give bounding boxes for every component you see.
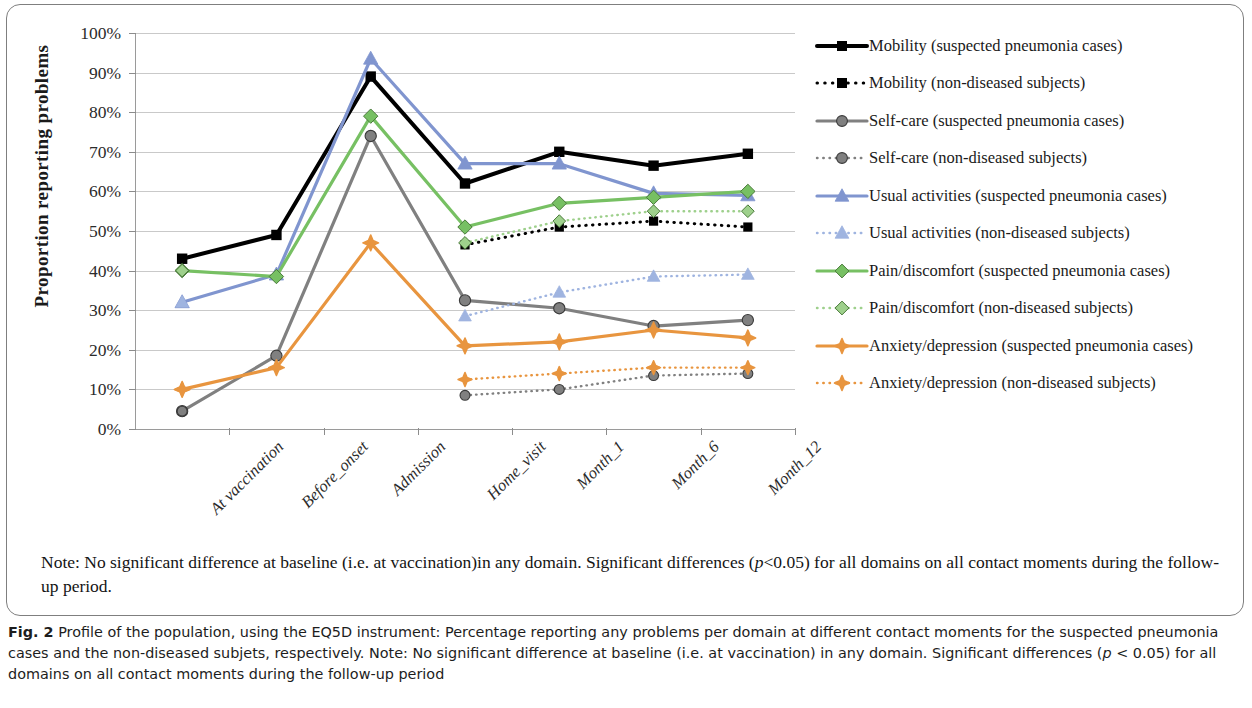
y-tick-mark bbox=[129, 33, 136, 34]
data-point-diamond bbox=[269, 269, 283, 283]
data-point-circle bbox=[365, 130, 376, 141]
y-tick-label: 50% bbox=[51, 221, 121, 242]
legend-item[interactable]: Anxiety/depression (non-diseased subject… bbox=[815, 365, 1245, 403]
y-tick-mark bbox=[129, 231, 136, 232]
legend-key-star-icon bbox=[815, 336, 869, 356]
y-tick-label: 80% bbox=[51, 102, 121, 123]
data-point-circle bbox=[837, 153, 848, 164]
figure-caption: Fig. 2 Profile of the population, using … bbox=[8, 622, 1246, 685]
legend-label: Pain/discomfort (non-diseased subjects) bbox=[869, 298, 1133, 318]
data-point-star bbox=[175, 383, 189, 397]
data-point-diamond bbox=[552, 196, 566, 210]
x-tick-label: Month_12 bbox=[764, 437, 826, 499]
data-point-square bbox=[366, 71, 376, 81]
legend-label: Anxiety/depression (suspected pneumonia … bbox=[869, 336, 1193, 356]
legend-item[interactable]: Mobility (suspected pneumonia cases) bbox=[815, 27, 1245, 65]
data-point-circle bbox=[554, 384, 564, 394]
y-tick-label: 40% bbox=[51, 260, 121, 281]
y-tick-label: 100% bbox=[51, 23, 121, 44]
y-tick-mark bbox=[129, 112, 136, 113]
x-tick-mark bbox=[795, 428, 796, 435]
y-tick-mark bbox=[129, 389, 136, 390]
caption-p-symbol: p bbox=[1102, 645, 1111, 661]
y-tick-label: 60% bbox=[51, 181, 121, 202]
legend-item[interactable]: Self-care (non-diseased subjects) bbox=[815, 140, 1245, 178]
legend-key-diamond-icon bbox=[815, 261, 869, 281]
gridline bbox=[135, 429, 795, 430]
legend-item[interactable]: Anxiety/depression (suspected pneumonia … bbox=[815, 327, 1245, 365]
data-point-circle bbox=[837, 115, 848, 126]
data-point-star bbox=[647, 361, 661, 375]
data-point-star bbox=[835, 338, 850, 353]
data-point-triangle bbox=[647, 270, 660, 281]
y-tick-label: 0% bbox=[51, 419, 121, 440]
legend-item[interactable]: Self-care (suspected pneumonia cases) bbox=[815, 102, 1245, 140]
y-tick-mark bbox=[129, 310, 136, 311]
note-line-1b: <0.05) for all domains on bbox=[763, 552, 942, 572]
x-tick-label: At vaccination bbox=[206, 437, 288, 519]
data-point-diamond bbox=[835, 301, 849, 315]
data-point-circle bbox=[554, 303, 565, 314]
figure-card: Proportion reporting problems 100%90%80%… bbox=[6, 4, 1244, 616]
x-tick-label: Home_visit bbox=[483, 437, 550, 504]
series-6 bbox=[175, 109, 755, 284]
data-point-square bbox=[271, 230, 281, 240]
data-point-triangle bbox=[553, 286, 566, 297]
legend-label: Usual activities (non-diseased subjects) bbox=[869, 223, 1130, 243]
legend-key-square-icon bbox=[815, 73, 869, 93]
figure-label: Fig. 2 bbox=[8, 624, 54, 640]
x-tick-label: Before_onset bbox=[298, 437, 373, 512]
data-point-square bbox=[743, 222, 752, 231]
data-point-square bbox=[178, 254, 187, 263]
data-point-square bbox=[837, 41, 847, 51]
y-tick-label: 70% bbox=[51, 141, 121, 162]
series-line bbox=[465, 368, 748, 380]
data-point-square bbox=[648, 160, 658, 170]
data-point-square bbox=[460, 178, 470, 188]
data-point-square bbox=[743, 149, 753, 159]
data-point-star bbox=[740, 330, 756, 346]
data-point-circle bbox=[460, 390, 470, 400]
legend-key-star-icon bbox=[815, 373, 869, 393]
x-tick-label: Admission bbox=[387, 437, 450, 500]
legend-item[interactable]: Usual activities (suspected pneumonia ca… bbox=[815, 177, 1245, 215]
legend-key-square-icon bbox=[815, 36, 869, 56]
series-line bbox=[465, 275, 748, 317]
data-point-triangle bbox=[835, 226, 849, 238]
legend-label: Self-care (non-diseased subjects) bbox=[869, 148, 1087, 168]
data-point-star bbox=[458, 373, 472, 387]
y-tick-label: 10% bbox=[51, 379, 121, 400]
y-tick-label: 30% bbox=[51, 300, 121, 321]
data-point-circle bbox=[459, 295, 470, 306]
x-tick-label: Month_6 bbox=[667, 437, 723, 493]
legend-key-circle-icon bbox=[815, 148, 869, 168]
series-line bbox=[182, 116, 748, 276]
y-tick-mark bbox=[129, 152, 136, 153]
legend-item[interactable]: Pain/discomfort (suspected pneumonia cas… bbox=[815, 252, 1245, 290]
chart-note: Note: No significant difference at basel… bbox=[41, 550, 1221, 598]
y-tick-mark bbox=[129, 191, 136, 192]
legend-item[interactable]: Mobility (non-diseased subjects) bbox=[815, 65, 1245, 103]
data-point-star bbox=[552, 367, 566, 381]
caption-text-a: Profile of the population, using the EQ5… bbox=[8, 624, 1218, 661]
data-point-diamond bbox=[647, 205, 660, 218]
note-line-1: Note: No significant difference at basel… bbox=[41, 552, 755, 572]
data-point-star bbox=[835, 376, 850, 391]
series-layer bbox=[135, 33, 795, 429]
legend-label: Pain/discomfort (suspected pneumonia cas… bbox=[869, 261, 1170, 281]
y-tick-label: 20% bbox=[51, 339, 121, 360]
legend-item[interactable]: Pain/discomfort (non-diseased subjects) bbox=[815, 290, 1245, 328]
legend-item[interactable]: Usual activities (non-diseased subjects) bbox=[815, 215, 1245, 253]
legend-key-diamond-icon bbox=[815, 298, 869, 318]
data-point-diamond bbox=[176, 264, 189, 277]
x-axis-tick-labels: At vaccinationBefore_onsetAdmissionHome_… bbox=[135, 433, 795, 543]
y-axis-tick-labels: 100%90%80%70%60%50%40%30%20%10%0% bbox=[49, 5, 121, 445]
legend-key-circle-icon bbox=[815, 111, 869, 131]
data-point-diamond bbox=[742, 205, 755, 218]
y-tick-mark bbox=[129, 350, 136, 351]
x-tick-label: Month_1 bbox=[573, 437, 629, 493]
y-tick-label: 90% bbox=[51, 62, 121, 83]
series-7 bbox=[176, 205, 754, 277]
legend-label: Self-care (suspected pneumonia cases) bbox=[869, 111, 1124, 131]
data-point-triangle bbox=[364, 51, 378, 64]
